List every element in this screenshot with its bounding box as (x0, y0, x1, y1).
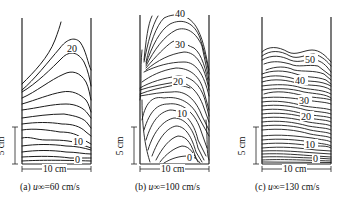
panel-c-label-10: 10 (305, 139, 315, 150)
panel-a-label-10: 10 (73, 136, 83, 147)
panel-c: 50 40 30 20 10 0 (253, 17, 331, 172)
panel-b-caption: (b) u∞=100 cm/s (135, 182, 200, 192)
panel-b-label-0: 0 (187, 152, 192, 163)
panel-c-label-20: 20 (301, 111, 311, 122)
panel-a-height-label: 5 cm (0, 137, 6, 156)
panel-b-height-label: 5 cm (115, 137, 125, 156)
panel-c-contours (262, 48, 331, 163)
panel-b: 40 30 20 10 0 (131, 8, 209, 172)
panel-c-label-0: 0 (313, 153, 318, 164)
panel-b-label-30: 30 (175, 39, 185, 50)
panel-a-label-0: 0 (75, 154, 80, 165)
panel-b-label-40: 40 (175, 8, 185, 19)
panel-c-height-label: 5 cm (237, 137, 247, 156)
panel-b-label-20: 20 (173, 76, 183, 87)
panel-b-contours (140, 15, 209, 163)
panel-a-width-label: 10 cm (42, 164, 67, 174)
panel-c-width-label: 10 cm (282, 164, 307, 174)
panel-c-caption: (c) u∞=130 cm/s (255, 182, 319, 192)
panel-b-width-label: 10 cm (160, 164, 185, 174)
panel-a-label-20: 20 (67, 43, 77, 54)
panel-a: 20 10 0 (12, 18, 91, 172)
panel-c-label-30: 30 (299, 95, 309, 106)
panel-b-label-10: 10 (177, 108, 187, 119)
panel-a-caption: (a) u∞=60 cm/s (20, 182, 80, 192)
panel-c-label-40: 40 (295, 75, 305, 86)
panel-c-label-50: 50 (305, 54, 315, 65)
